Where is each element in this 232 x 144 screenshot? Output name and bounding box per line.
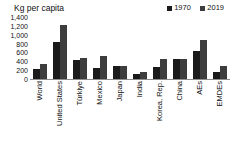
bar-2019[interactable] <box>120 66 127 79</box>
bar-group <box>110 17 130 79</box>
x-tick-label: Japan <box>116 81 124 101</box>
bar-2019[interactable] <box>220 66 227 79</box>
bar-1970[interactable] <box>133 74 140 79</box>
bar-group <box>30 17 50 79</box>
bar-1970[interactable] <box>193 51 200 79</box>
chart-legend: 19702019 <box>167 4 224 12</box>
legend-label: 1970 <box>174 4 191 12</box>
x-axis-tick-labels: WorldUnited StatesTürkiyeMexicoJapanIndi… <box>30 80 230 142</box>
bar-2019[interactable] <box>160 59 167 79</box>
y-axis-title: Kg per capita <box>14 3 64 13</box>
bar-2019[interactable] <box>60 25 67 79</box>
y-tick-label: 1,400 <box>10 14 28 21</box>
y-tick-label: 0 <box>24 76 28 83</box>
bar-1970[interactable] <box>93 68 100 79</box>
legend-label: 2019 <box>207 4 224 12</box>
plot-area: 02004006008001,0001,2001,400 <box>0 17 232 79</box>
x-tick-label: India <box>136 81 144 97</box>
bar-1970[interactable] <box>213 72 220 79</box>
x-tick-cell: Türkiye <box>70 80 90 142</box>
y-tick-label: 400 <box>16 58 28 65</box>
x-tick-cell: AEs <box>190 80 210 142</box>
legend-swatch-icon <box>200 6 205 11</box>
legend-swatch-icon <box>167 6 172 11</box>
bar-group <box>70 17 90 79</box>
legend-item-1970[interactable]: 1970 <box>167 4 191 12</box>
bar-2019[interactable] <box>180 59 187 79</box>
bar-2019[interactable] <box>200 40 207 79</box>
x-tick-label: AEs <box>196 81 204 95</box>
x-tick-cell: World <box>30 80 50 142</box>
legend-item-2019[interactable]: 2019 <box>200 4 224 12</box>
bar-2019[interactable] <box>100 56 107 79</box>
x-tick-label: EMDEs <box>216 81 224 106</box>
y-tick-label: 200 <box>16 67 28 74</box>
x-tick-label: Mexico <box>96 81 104 105</box>
x-tick-label: United States <box>56 81 64 126</box>
x-tick-label: World <box>36 81 44 100</box>
x-tick-label: Korea, Rep. <box>156 81 164 121</box>
y-tick-label: 1,000 <box>10 31 28 38</box>
bar-group <box>210 17 230 79</box>
bar-group <box>190 17 210 79</box>
x-tick-label: China <box>176 81 184 101</box>
bar-1970[interactable] <box>173 59 180 79</box>
x-tick-cell: EMDEs <box>210 80 230 142</box>
bar-2019[interactable] <box>140 72 147 79</box>
x-tick-label: Türkiye <box>76 81 84 106</box>
bar-1970[interactable] <box>73 60 80 79</box>
bar-group <box>50 17 70 79</box>
bar-1970[interactable] <box>53 42 60 79</box>
x-tick-cell: India <box>130 80 150 142</box>
bar-1970[interactable] <box>113 66 120 79</box>
bar-group <box>130 17 150 79</box>
x-tick-cell: United States <box>50 80 70 142</box>
bar-group <box>150 17 170 79</box>
y-axis-tick-labels: 02004006008001,0001,2001,400 <box>0 17 29 79</box>
bar-2019[interactable] <box>80 58 87 79</box>
y-tick-label: 800 <box>16 40 28 47</box>
bar-chart: Kg per capita 19702019 02004006008001,00… <box>0 0 232 144</box>
bar-groups <box>30 17 230 79</box>
bar-1970[interactable] <box>153 67 160 79</box>
x-tick-cell: Japan <box>110 80 130 142</box>
bar-group <box>90 17 110 79</box>
plot-canvas <box>30 17 230 80</box>
y-tick-label: 600 <box>16 49 28 56</box>
x-tick-cell: Mexico <box>90 80 110 142</box>
y-tick-label: 1,200 <box>10 22 28 29</box>
bar-2019[interactable] <box>40 64 47 79</box>
bar-group <box>170 17 190 79</box>
x-tick-cell: China <box>170 80 190 142</box>
bar-1970[interactable] <box>33 69 40 79</box>
x-tick-cell: Korea, Rep. <box>150 80 170 142</box>
